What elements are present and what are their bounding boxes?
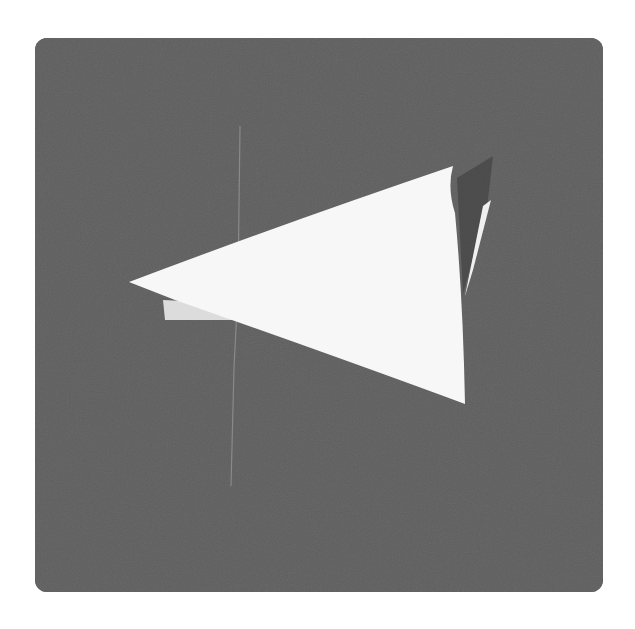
paper-fold-illustration — [35, 38, 603, 592]
gray-board — [35, 38, 603, 592]
